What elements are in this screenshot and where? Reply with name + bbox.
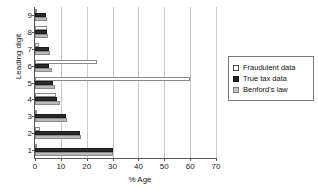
bar-benford-digit-4 xyxy=(35,101,60,105)
plot-area: 010203040506070123456789 xyxy=(34,7,216,159)
x-tick-mark xyxy=(164,158,165,161)
chart-legend: Fraudulent data True tax data Benford's … xyxy=(228,56,314,101)
x-tick-label: 0 xyxy=(33,162,37,171)
y-axis-title: Leading digit xyxy=(14,17,23,97)
bar-fraud-digit-5 xyxy=(35,77,190,81)
legend-item-true-tax-data[interactable]: True tax data xyxy=(233,74,310,83)
bar-benford-digit-6 xyxy=(35,68,52,72)
x-tick-label: 60 xyxy=(186,162,195,171)
bar-benford-digit-2 xyxy=(35,135,81,139)
y-tick-label-4: 4 xyxy=(28,95,32,104)
gridline xyxy=(138,7,139,158)
bar-benford-digit-8 xyxy=(35,34,48,38)
bar-benford-digit-3 xyxy=(35,118,67,122)
y-tick-label-9: 9 xyxy=(28,11,32,20)
legend-item-fraudulent-data[interactable]: Fraudulent data xyxy=(233,63,310,72)
gridline xyxy=(113,7,114,158)
benford-law-bar-chart: Leading digit 010203040506070123456789 %… xyxy=(0,0,318,193)
x-tick-label: 50 xyxy=(160,162,169,171)
legend-item-benfords-law[interactable]: Benford's law xyxy=(233,85,310,94)
x-tick-label: 10 xyxy=(56,162,65,171)
y-tick-label-1: 1 xyxy=(28,145,32,154)
x-tick-mark xyxy=(190,158,191,161)
y-tick-label-2: 2 xyxy=(28,128,32,137)
y-tick-label-5: 5 xyxy=(28,78,32,87)
x-tick-mark xyxy=(138,158,139,161)
y-tick-label-3: 3 xyxy=(28,112,32,121)
x-tick-label: 20 xyxy=(82,162,91,171)
legend-swatch-icon-true-tax xyxy=(233,76,239,82)
legend-label-true-tax: True tax data xyxy=(243,74,287,83)
x-tick-mark xyxy=(35,158,36,161)
bar-benford-digit-5 xyxy=(35,85,55,89)
gridline xyxy=(164,7,165,158)
x-tick-label: 30 xyxy=(108,162,117,171)
bar-benford-digit-1 xyxy=(35,152,113,156)
y-tick-label-7: 7 xyxy=(28,44,32,53)
gridline xyxy=(87,7,88,158)
x-tick-mark xyxy=(113,158,114,161)
bar-benford-digit-7 xyxy=(35,51,50,55)
y-tick-label-8: 8 xyxy=(28,28,32,37)
y-tick-label-6: 6 xyxy=(28,61,32,70)
gridline xyxy=(190,7,191,158)
x-tick-label: 40 xyxy=(134,162,143,171)
gridline xyxy=(216,7,217,158)
x-axis-title: % Age xyxy=(0,175,318,184)
legend-swatch-icon-fraudulent xyxy=(233,65,239,71)
legend-label-benford: Benford's law xyxy=(243,85,288,94)
x-tick-mark xyxy=(87,158,88,161)
legend-label-fraudulent: Fraudulent data xyxy=(243,63,296,72)
legend-swatch-icon-benford xyxy=(233,87,239,93)
bar-benford-digit-9 xyxy=(35,17,47,21)
x-tick-mark xyxy=(61,158,62,161)
x-tick-mark xyxy=(216,158,217,161)
x-tick-label: 70 xyxy=(212,162,221,171)
